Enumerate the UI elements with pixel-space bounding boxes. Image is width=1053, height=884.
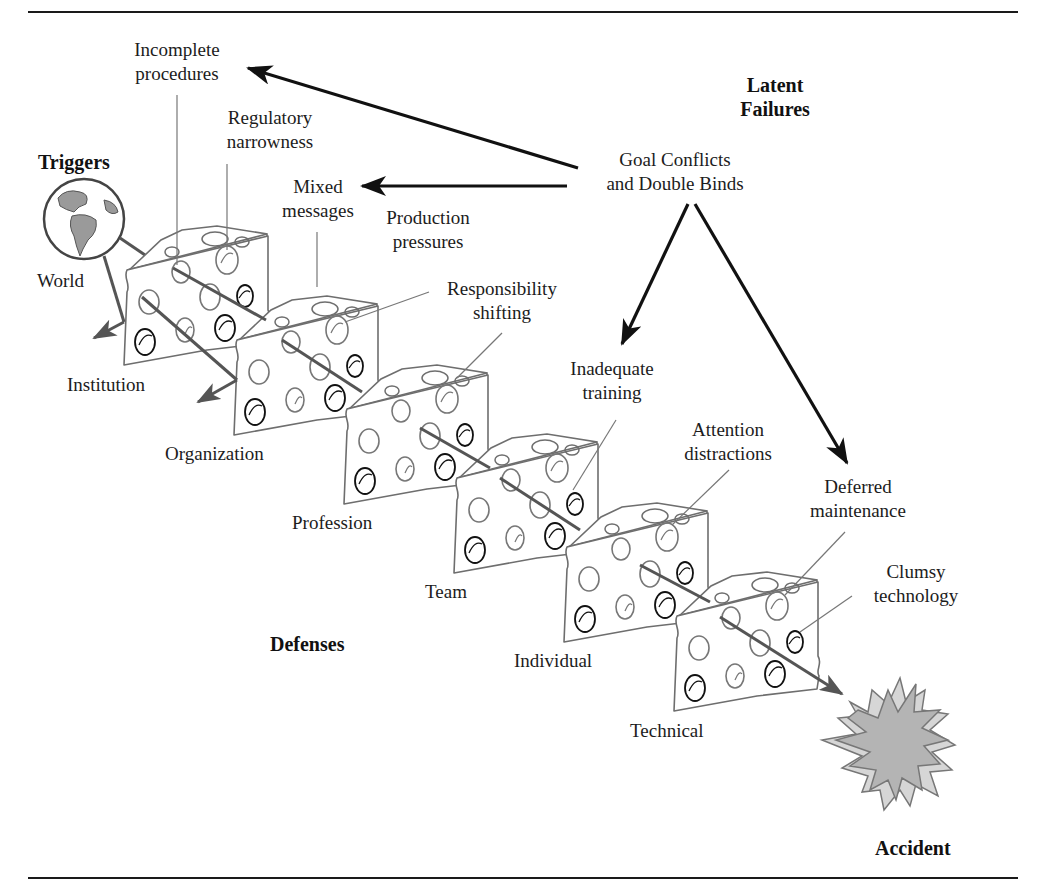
- failure-label-attention-distractions: Attention distractions: [670, 418, 786, 466]
- globe-icon: [44, 179, 124, 259]
- accident-burst-icon: [822, 678, 955, 810]
- layer-label-team: Team: [425, 580, 467, 604]
- failure-label-responsibility-shifting: Responsibility shifting: [430, 277, 574, 325]
- layer-label-institution: Institution: [67, 373, 145, 397]
- failure-label-inadequate-training: Inadequate training: [556, 357, 668, 405]
- goal-conflicts-label: Goal Conflicts and Double Binds: [580, 148, 770, 196]
- layer-label-organization: Organization: [165, 442, 264, 466]
- diagram-graphics: [0, 0, 1053, 884]
- failure-label-regulatory-narrowness: Regulatory narrowness: [210, 106, 330, 154]
- failure-label-clumsy-technology: Clumsy technology: [860, 560, 972, 608]
- swiss-cheese-diagram: Triggers Latent Failures Defenses Accide…: [0, 0, 1053, 884]
- failure-label-deferred-maintenance: Deferred maintenance: [795, 475, 921, 523]
- world-label: World: [37, 269, 84, 293]
- layer-label-profession: Profession: [292, 511, 372, 535]
- failure-label-mixed-messages: Mixed messages: [272, 175, 364, 223]
- heading-defenses: Defenses: [270, 632, 344, 656]
- layer-label-individual: Individual: [514, 649, 592, 673]
- failure-label-production-pressures: Production pressures: [372, 206, 484, 254]
- heading-accident: Accident: [875, 836, 951, 860]
- heading-latent-failures: Latent Failures: [725, 73, 825, 121]
- failure-label-incomplete-procedures: Incomplete procedures: [112, 38, 242, 86]
- layer-label-technical: Technical: [630, 719, 704, 743]
- heading-triggers: Triggers: [38, 150, 110, 174]
